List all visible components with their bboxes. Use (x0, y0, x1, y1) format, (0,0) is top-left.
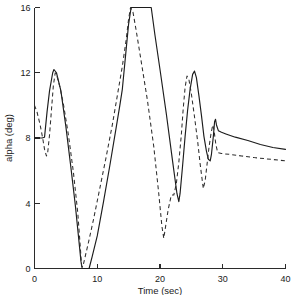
y-tick-label: 4 (25, 199, 30, 209)
x-axis-title: Time (sec) (138, 285, 183, 295)
x-axis-ticks: 010203040 (32, 264, 291, 284)
y-tick-label: 12 (20, 68, 30, 78)
figure-container: 010203040 0481216 Time (sec) alpha (deg) (0, 0, 293, 295)
x-tick-label: 40 (280, 274, 290, 284)
x-tick-label: 0 (32, 274, 37, 284)
y-tick-label: 16 (20, 3, 30, 13)
series-line-solid (35, 8, 286, 269)
y-tick-label: 0 (25, 264, 30, 274)
x-tick-label: 30 (218, 274, 228, 284)
y-axis-title: alpha (deg) (3, 114, 14, 162)
x-tick-label: 20 (155, 274, 165, 284)
axes: 010203040 0481216 (20, 3, 290, 284)
line-chart: 010203040 0481216 Time (sec) alpha (deg) (0, 0, 293, 295)
y-tick-label: 8 (25, 133, 30, 143)
data-series-group (35, 8, 286, 269)
x-tick-label: 10 (92, 274, 102, 284)
series-line-dashed (35, 8, 286, 267)
